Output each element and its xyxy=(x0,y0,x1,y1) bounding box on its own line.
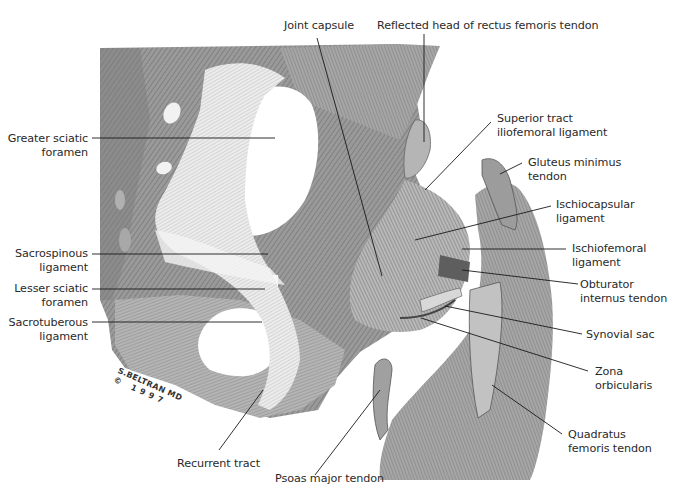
label-line: Quadratus xyxy=(568,428,652,442)
label-superior-tract-iliofemoral: Superior tract iliofemoral ligament xyxy=(497,112,607,139)
label-line: ligament xyxy=(572,256,646,270)
label-line: ligament xyxy=(4,261,88,275)
label-line: foramen xyxy=(4,146,88,160)
label-psoas-major-tendon: Psoas major tendon xyxy=(275,472,384,486)
label-joint-capsule: Joint capsule xyxy=(284,19,354,33)
label-quadratus-femoris-tendon: Quadratus femoris tendon xyxy=(568,428,652,455)
label-synovial-sac: Synovial sac xyxy=(586,328,655,342)
label-line: Sacrospinous xyxy=(4,247,88,261)
label-line: femoris tendon xyxy=(568,442,652,456)
label-line: foramen xyxy=(4,296,88,310)
label-zona-orbicularis: Zona orbicularis xyxy=(595,365,652,392)
label-line: Superior tract xyxy=(497,112,607,126)
label-line: Gluteus minimus xyxy=(528,156,621,170)
label-reflected-head-rectus-femoris: Reflected head of rectus femoris tendon xyxy=(377,19,598,33)
label-line: ligament xyxy=(556,212,635,226)
label-sacrospinous-ligament: Sacrospinous ligament xyxy=(4,247,88,274)
label-line: iliofemoral ligament xyxy=(497,126,607,140)
label-line: Obturator xyxy=(580,278,667,292)
label-line: Zona xyxy=(595,365,652,379)
label-line: ligament xyxy=(2,330,88,344)
label-recurrent-tract: Recurrent tract xyxy=(177,457,260,471)
leader-superior-tract xyxy=(425,122,491,190)
label-lesser-sciatic-foramen: Lesser sciatic foramen xyxy=(4,282,88,309)
label-line: orbicularis xyxy=(595,379,652,393)
label-line: Greater sciatic xyxy=(4,132,88,146)
leader-psoas-major xyxy=(315,390,380,475)
label-line: internus tendon xyxy=(580,292,667,306)
label-line: Ischiofemoral xyxy=(572,242,646,256)
label-ischiofemoral-ligament: Ischiofemoral ligament xyxy=(572,242,646,269)
label-line: tendon xyxy=(528,170,621,184)
label-sacrotuberous-ligament: Sacrotuberous ligament xyxy=(2,316,88,343)
label-greater-sciatic-foramen: Greater sciatic foramen xyxy=(4,132,88,159)
label-obturator-internus-tendon: Obturator internus tendon xyxy=(580,278,667,305)
label-line: Lesser sciatic xyxy=(4,282,88,296)
label-gluteus-minimus-tendon: Gluteus minimus tendon xyxy=(528,156,621,183)
label-line: Sacrotuberous xyxy=(2,316,88,330)
label-line: Ischiocapsular xyxy=(556,198,635,212)
label-ischiocapsular-ligament: Ischiocapsular ligament xyxy=(556,198,635,225)
